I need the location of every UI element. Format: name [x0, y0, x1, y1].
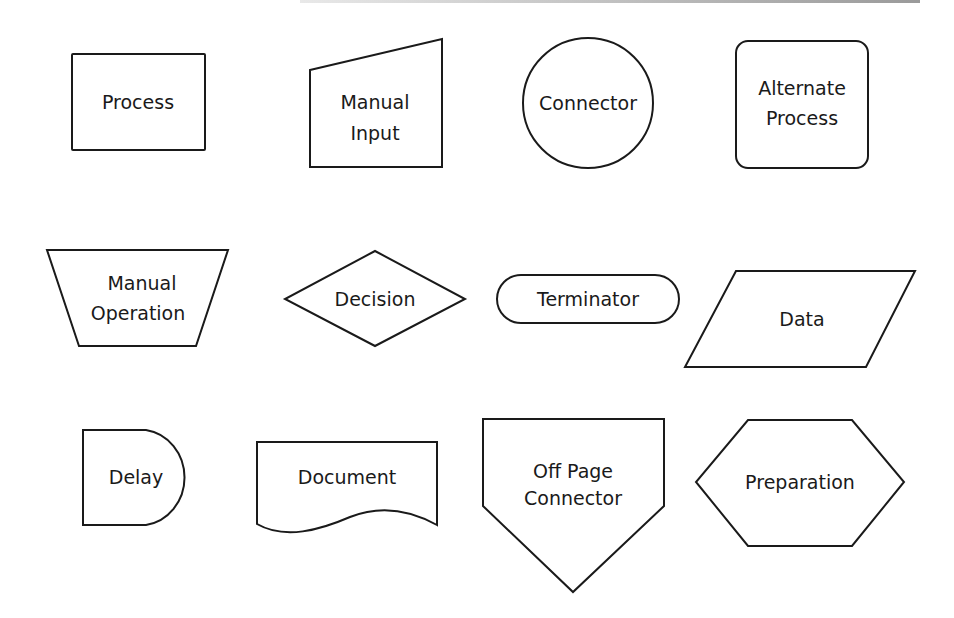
process-symbol: Process [72, 54, 205, 150]
decision-label: Decision [335, 288, 416, 310]
alternate-process-symbol: Alternate Process [736, 41, 868, 168]
data-label: Data [779, 308, 824, 330]
terminator-label: Terminator [536, 288, 639, 310]
delay-label: Delay [109, 466, 164, 488]
terminator-symbol: Terminator [497, 275, 679, 323]
manual-input-symbol: Manual Input [310, 39, 442, 167]
manual-operation-label-line1: Manual [107, 272, 176, 294]
document-symbol: Document [257, 442, 437, 532]
process-label: Process [102, 91, 174, 113]
decision-symbol: Decision [285, 251, 465, 346]
connector-label: Connector [539, 92, 637, 114]
connector-symbol: Connector [523, 38, 653, 168]
flowchart-symbols-diagram: Process Manual Input Connector Alternate… [0, 0, 954, 618]
manual-operation-symbol: Manual Operation [47, 250, 228, 346]
alternate-process-label-line2: Process [766, 107, 838, 129]
preparation-symbol: Preparation [696, 420, 904, 546]
off-page-connector-label-line1: Off Page [533, 460, 613, 482]
preparation-label: Preparation [745, 471, 855, 493]
document-label: Document [298, 466, 396, 488]
manual-input-label-line1: Manual [340, 91, 409, 113]
data-symbol: Data [685, 271, 915, 367]
off-page-connector-symbol: Off Page Connector [483, 419, 664, 592]
manual-operation-label-line2: Operation [91, 302, 186, 324]
alternate-process-label-line1: Alternate [758, 77, 846, 99]
delay-symbol: Delay [83, 430, 185, 525]
manual-input-label-line2: Input [350, 122, 399, 144]
off-page-connector-label-line2: Connector [524, 487, 622, 509]
